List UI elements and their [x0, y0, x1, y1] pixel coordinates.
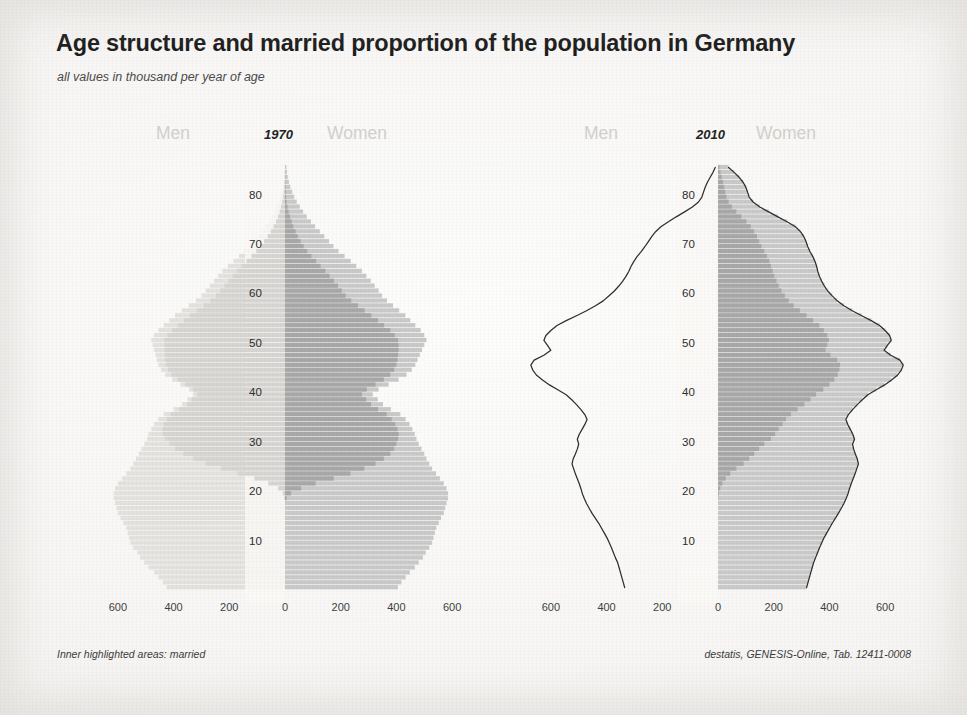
age-tick-50: 50: [249, 337, 262, 349]
value-tick-1: 400: [164, 601, 182, 613]
age-tick-70: 70: [682, 238, 695, 250]
value-tick-4: 200: [765, 601, 783, 613]
age-tick-80: 80: [682, 189, 695, 201]
value-tick-2: 200: [220, 601, 238, 613]
age-tick-30: 30: [682, 436, 695, 448]
age-tick-60: 60: [682, 287, 695, 299]
legend-note: Inner highlighted areas: married: [57, 648, 205, 660]
age-tick-60: 60: [249, 287, 262, 299]
value-tick-2: 200: [653, 601, 671, 613]
age-tick-80: 80: [249, 189, 262, 201]
value-tick-6: 600: [443, 601, 461, 613]
bars-women-total-1970: [285, 165, 448, 589]
age-tick-10: 10: [682, 535, 695, 547]
bars-women-married-1970: [285, 175, 399, 501]
value-tick-5: 400: [820, 601, 838, 613]
value-tick-0: 600: [109, 601, 127, 613]
source-credit: destatis, GENESIS-Online, Tab. 12411-000…: [704, 648, 911, 660]
age-tick-50: 50: [682, 337, 695, 349]
page-canvas: Age structure and married proportion of …: [0, 0, 967, 715]
value-tick-4: 200: [332, 601, 350, 613]
value-tick-3: 0: [715, 601, 721, 613]
age-tick-20: 20: [682, 485, 695, 497]
panel-2010: Men 2010 Women 1020304050607080 60040020…: [484, 0, 967, 715]
age-tick-20: 20: [249, 485, 262, 497]
age-tick-70: 70: [249, 238, 262, 250]
value-tick-1: 400: [597, 601, 615, 613]
panel-1970: Men 1970 Women 1020304050607080 60040020…: [0, 0, 483, 715]
age-tick-30: 30: [249, 436, 262, 448]
value-tick-0: 600: [542, 601, 560, 613]
pyramid-plot-1970: [0, 0, 483, 715]
value-tick-3: 0: [282, 601, 288, 613]
age-tick-10: 10: [249, 535, 262, 547]
age-tick-40: 40: [249, 386, 262, 398]
value-tick-6: 600: [876, 601, 894, 613]
bars-women-total-2010: [718, 165, 903, 589]
value-tick-5: 400: [387, 601, 405, 613]
age-tick-40: 40: [682, 386, 695, 398]
